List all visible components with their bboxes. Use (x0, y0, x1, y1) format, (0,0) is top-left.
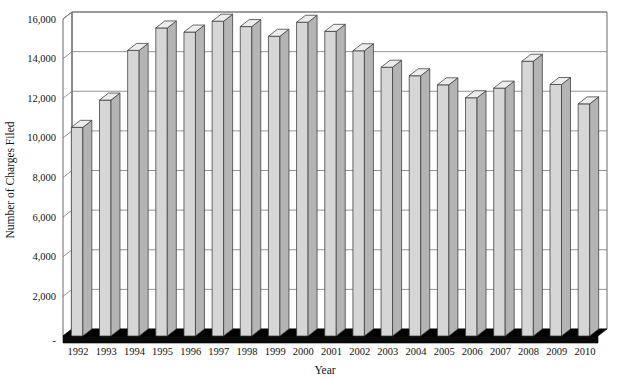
bar-column (494, 81, 515, 336)
bar-side-face (280, 29, 289, 336)
x-tick-label: 2008 (518, 346, 539, 357)
bar-column (550, 77, 571, 336)
y-tick-label-zero: - (53, 335, 57, 346)
x-tick-label: 1998 (237, 346, 258, 357)
x-tick-label: 2003 (377, 346, 398, 357)
bar-column (212, 14, 233, 336)
bar-front-face (128, 50, 139, 336)
bar-chart-svg: 2,0004,0006,0008,00010,00012,00014,00016… (0, 0, 622, 383)
x-tick-label: 1997 (208, 346, 229, 357)
bar-column (268, 29, 289, 336)
bar-column (325, 24, 346, 336)
bar-column (99, 93, 120, 336)
bar-column (240, 20, 260, 336)
x-tick-label: 2000 (293, 346, 314, 357)
bar-front-face (466, 98, 478, 336)
x-tick-label: 1996 (180, 346, 201, 357)
bar-side-face (336, 24, 345, 336)
x-tick-label: 2004 (405, 346, 427, 357)
y-tick-label: 8,000 (32, 172, 56, 183)
bar-side-face (562, 77, 571, 336)
bar-side-face (421, 69, 430, 336)
bar-front-face (156, 28, 168, 336)
x-tick-label: 1992 (68, 346, 89, 357)
x-axis-title: Year (314, 364, 335, 376)
bar-column (381, 60, 402, 336)
bar-front-face (381, 67, 393, 336)
bar-column (71, 120, 92, 336)
x-tick-label: 2010 (574, 346, 595, 357)
bar-column (522, 54, 543, 336)
bar-chart-container: 2,0004,0006,0008,00010,00012,00014,00016… (0, 0, 622, 383)
bar-front-face (99, 100, 111, 336)
y-axis-title: Number of Charges Filed (4, 121, 17, 238)
bar-front-face (240, 27, 252, 336)
y-tick-label: 12,000 (27, 93, 56, 104)
bar-front-face (578, 104, 590, 336)
bar-side-face (393, 60, 402, 336)
bar-column (184, 25, 205, 336)
y-tick-label: 10,000 (27, 132, 56, 143)
bar-side-face (364, 44, 373, 336)
bar-side-face (505, 81, 514, 336)
bar-side-face (83, 120, 92, 336)
bar-side-face (195, 25, 204, 336)
bar-front-face (494, 88, 506, 336)
bar-side-face (590, 97, 599, 336)
bars (71, 14, 598, 336)
x-tick-label: 2001 (321, 346, 342, 357)
bar-front-face (71, 127, 83, 336)
x-tick-label: 2007 (490, 346, 511, 357)
x-tick-label: 1993 (96, 346, 117, 357)
bar-column (578, 97, 599, 336)
bar-column (156, 21, 177, 336)
bar-side-face (224, 14, 233, 336)
bar-front-face (268, 36, 280, 336)
x-tick-label: 1999 (265, 346, 286, 357)
y-tick-label: 14,000 (27, 53, 56, 64)
bar-front-face (522, 61, 534, 336)
bar-column (437, 78, 458, 336)
bar-front-face (297, 22, 309, 336)
bar-column (466, 91, 487, 336)
y-tick-label: 4,000 (32, 251, 56, 262)
bar-front-face (325, 31, 337, 336)
bar-column (409, 69, 430, 336)
x-axis-ticks: 1992199319941995199619971998199920002001… (68, 346, 596, 357)
x-tick-label: 2009 (546, 346, 567, 357)
bar-column (128, 43, 148, 336)
x-tick-label: 1995 (152, 346, 173, 357)
x-tick-label: 2005 (434, 346, 455, 357)
bar-side-face (533, 54, 542, 336)
bar-side-face (308, 15, 317, 336)
bar-side-face (477, 91, 486, 336)
bar-front-face (550, 84, 562, 336)
y-tick-label: 6,000 (32, 212, 56, 223)
bar-front-face (184, 32, 196, 336)
x-tick-label: 1994 (124, 346, 146, 357)
y-axis-ticks: 2,0004,0006,0008,00010,00012,00014,00016… (27, 14, 56, 346)
bar-front-face (353, 51, 365, 336)
bar-column (353, 44, 374, 336)
bar-side-face (449, 78, 458, 336)
bar-column (297, 15, 318, 336)
bar-front-face (437, 85, 449, 336)
bar-side-face (139, 43, 148, 336)
bar-front-face (212, 21, 224, 336)
x-tick-label: 2006 (462, 346, 483, 357)
x-tick-label: 2002 (349, 346, 370, 357)
bar-side-face (167, 21, 176, 336)
y-tick-label: 2,000 (32, 291, 56, 302)
y-tick-label: 16,000 (27, 14, 56, 25)
bar-front-face (409, 76, 421, 336)
bar-side-face (111, 93, 120, 336)
bar-side-face (252, 20, 261, 336)
